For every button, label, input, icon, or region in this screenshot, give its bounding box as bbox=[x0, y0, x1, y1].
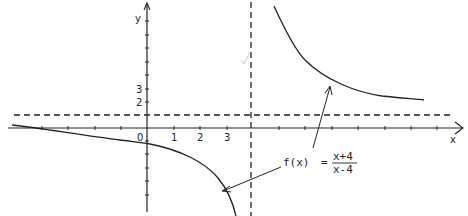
origin-label: 0 bbox=[137, 132, 143, 143]
x-axis-label: x bbox=[450, 134, 456, 145]
curve-right-branch bbox=[274, 6, 424, 100]
function-graph: y x 0 1 2 3 3 2 f(x) = x+4 x-4 bbox=[0, 0, 468, 216]
function-name: f(x) bbox=[283, 156, 310, 169]
x-tick-label-3: 3 bbox=[224, 132, 230, 143]
callout-arrow-lower bbox=[222, 167, 281, 192]
y-tick-label-2: 2 bbox=[136, 97, 142, 108]
callout-arrow-upper bbox=[313, 86, 332, 148]
function-equals: = bbox=[321, 156, 328, 169]
y-tick-label-3: 3 bbox=[136, 84, 142, 95]
x-tick-label-2: 2 bbox=[197, 132, 203, 143]
function-numerator: x+4 bbox=[333, 150, 353, 163]
x-tick-label-1: 1 bbox=[171, 132, 177, 143]
y-axis bbox=[144, 3, 150, 212]
x-axis bbox=[8, 122, 463, 134]
checkmark-icon bbox=[241, 52, 250, 64]
y-axis-label: y bbox=[135, 13, 141, 24]
function-denominator: x-4 bbox=[333, 163, 353, 176]
function-label: f(x) = x+4 x-4 bbox=[283, 150, 357, 176]
